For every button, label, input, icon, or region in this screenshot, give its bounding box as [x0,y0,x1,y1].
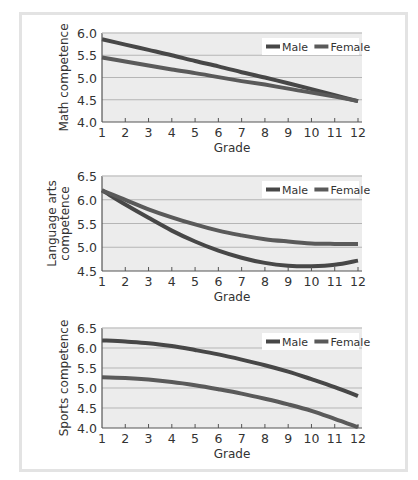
y-axis-title: Math competence [57,23,71,131]
x-tick-label: 9 [284,274,292,289]
y-tick-label: 6.0 [77,341,97,356]
language-arts-competence-chart: 4.55.05.56.06.5 123456789101112 Grade La… [45,169,370,304]
y-tick-labels: 4.04.55.05.56.06.5 [77,321,97,436]
legend-label-male: Male [282,184,308,197]
x-tick-label: 10 [304,274,320,289]
math-competence-chart: 4.04.55.05.56.0 123456789101112 Grade Ma… [57,23,370,155]
y-tick-labels: 4.04.55.05.56.0 [77,26,97,130]
x-tick-label: 5 [191,274,199,289]
y-tick-label: 6.5 [77,169,97,184]
x-tick-label: 2 [121,125,129,140]
x-axis-title: Grade [214,447,251,461]
x-tick-label: 10 [304,125,320,140]
x-tick-label: 12 [350,125,366,140]
x-tick-label: 2 [121,274,129,289]
x-tick-label: 7 [238,431,246,446]
y-tick-label: 5.0 [77,240,97,255]
x-tick-label: 3 [145,274,153,289]
y-axis-title-line: competence [58,186,72,260]
x-axis-title: Grade [214,290,251,304]
y-tick-label: 6.5 [77,321,97,336]
x-tick-label: 3 [145,125,153,140]
x-tick-label: 9 [284,431,292,446]
legend-label-male: Male [282,336,308,349]
x-tick-label: 4 [168,125,176,140]
x-tick-label: 5 [191,125,199,140]
legend: MaleFemale [262,333,370,350]
y-tick-label: 4.0 [77,115,97,130]
x-tick-label: 1 [98,125,106,140]
x-tick-label: 7 [238,274,246,289]
x-axis-title: Grade [214,141,251,155]
y-axis-title: Language artscompetence [45,180,72,266]
x-tick-label: 7 [238,125,246,140]
x-tick-labels: 123456789101112 [98,431,366,446]
y-tick-label: 6.0 [77,193,97,208]
x-tick-label: 11 [327,274,343,289]
legend-label-male: Male [282,41,308,54]
y-tick-label: 4.5 [77,93,97,108]
legend: MaleFemale [262,181,370,198]
y-tick-label: 5.0 [77,381,97,396]
sports-competence-chart: 4.04.55.05.56.06.5 123456789101112 Grade… [57,320,370,461]
y-axis-title: Sports competence [57,320,71,437]
x-tick-label: 10 [304,431,320,446]
x-tick-label: 5 [191,431,199,446]
x-tick-label: 1 [98,431,106,446]
x-tick-label: 12 [350,274,366,289]
x-tick-labels: 123456789101112 [98,274,366,289]
x-tick-label: 8 [261,125,269,140]
y-tick-label: 5.5 [77,361,97,376]
x-tick-label: 11 [327,431,343,446]
y-tick-label: 6.0 [77,26,97,41]
x-tick-label: 1 [98,274,106,289]
x-tick-label: 9 [284,125,292,140]
y-tick-label: 4.5 [77,401,97,416]
x-tick-label: 6 [214,431,222,446]
x-tick-labels: 123456789101112 [98,125,366,140]
x-tick-label: 6 [214,125,222,140]
y-tick-label: 5.0 [77,71,97,86]
x-tick-label: 6 [214,274,222,289]
legend-label-female: Female [330,184,370,197]
y-tick-label: 5.5 [77,217,97,232]
y-axis-title-line: Language arts [45,180,59,266]
legend-label-female: Female [330,41,370,54]
legend-label-female: Female [330,336,370,349]
x-tick-label: 8 [261,431,269,446]
x-tick-label: 3 [145,431,153,446]
x-tick-label: 4 [168,431,176,446]
x-tick-label: 12 [350,431,366,446]
y-tick-labels: 4.55.05.56.06.5 [77,169,97,279]
x-tick-label: 8 [261,274,269,289]
y-tick-label: 4.0 [77,421,97,436]
x-tick-label: 11 [327,125,343,140]
x-tick-label: 4 [168,274,176,289]
charts-canvas: 4.04.55.05.56.0 123456789101112 Grade Ma… [0,0,418,480]
y-tick-label: 5.5 [77,48,97,63]
x-tick-label: 2 [121,431,129,446]
y-tick-label: 4.5 [77,264,97,279]
legend: MaleFemale [262,38,370,55]
